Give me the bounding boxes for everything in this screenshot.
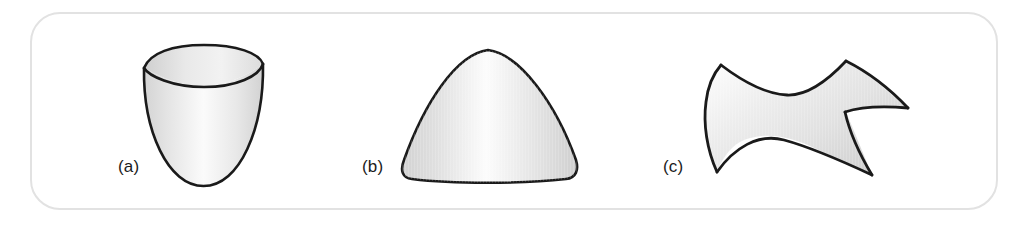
figure-root: (a) (b) (c) [0,0,1029,225]
dome-texture [402,50,577,183]
surface-saddle-c [704,61,908,175]
panel-label-c: (c) [663,157,683,177]
panel-label-b: (b) [362,157,383,177]
surface-dome-b [402,50,577,183]
surface-bowl-a [144,45,263,186]
panel-label-a: (a) [118,157,139,177]
surfaces-illustration [0,0,1029,225]
